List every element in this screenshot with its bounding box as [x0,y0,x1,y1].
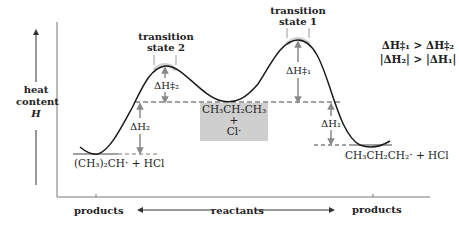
ts1-label: transition state 1 [270,5,326,27]
y-axis-label: heat content H [16,84,56,120]
relation-activation: ΔH‡₁ > ΔH‡₂ [378,38,458,52]
y-label-content: content [16,96,56,108]
ts1-label-line2: state 1 [270,16,326,27]
x-label-reactants: reactants [211,205,264,216]
y-label-heat: heat [16,84,56,96]
dH1-label: ΔH₁ [321,118,341,129]
reactants-chlorine: Cl· [200,126,268,137]
x-label-left-products: products [74,205,124,216]
ts2-label-line1: transition [138,31,194,42]
ts1-label-line1: transition [270,5,326,16]
y-label-symbol: H [16,108,56,120]
relations-box: ΔH‡₁ > ΔH‡₂ |ΔH₂| > |ΔH₁| [378,38,458,66]
dH1-activation-label: ΔH‡₁ [286,65,311,76]
relation-enthalpy: |ΔH₂| > |ΔH₁| [378,52,458,66]
dH2-activation-label: ΔH‡₂ [154,80,179,91]
reactants-label: CH₃CH₂CH₃ + Cl· [200,104,268,137]
left-products-label: (CH₃)₂CH· + HCl [74,158,164,169]
right-products-label: CH₃CH₂CH₂· + HCl [345,150,449,161]
ts2-label: transition state 2 [138,31,194,53]
dH2-label: ΔH₂ [130,121,150,132]
x-label-right-products: products [352,204,402,215]
ts2-label-line2: state 2 [138,42,194,53]
